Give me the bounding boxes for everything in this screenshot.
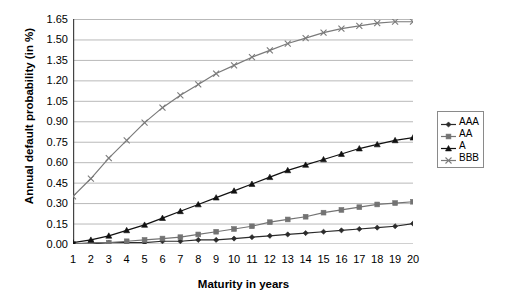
x-tick-label: 6 (159, 253, 165, 265)
data-point-marker (232, 227, 237, 232)
legend-marker-square-icon (440, 128, 457, 139)
series-line (73, 22, 413, 197)
data-point-marker (160, 236, 165, 241)
x-tick-label: 17 (353, 253, 365, 265)
data-point-marker (357, 205, 362, 210)
data-point-marker (267, 220, 272, 225)
data-point-marker (214, 229, 219, 234)
data-point-marker (196, 232, 201, 237)
data-point-marker (267, 47, 273, 53)
data-point-marker (250, 224, 255, 229)
data-point-marker (214, 237, 219, 242)
default-probability-chart: Annual default probability (in %) 0.000.… (0, 0, 506, 301)
x-axis-tick-labels: 1234567891011121314151617181920 (0, 250, 506, 270)
data-point-marker (178, 235, 183, 240)
plot-area (73, 19, 413, 244)
y-tick-label: 1.20 (47, 74, 68, 86)
y-tick-label: 0.00 (47, 238, 68, 250)
x-tick-label: 2 (88, 253, 94, 265)
legend-marker-diamond-icon (440, 116, 457, 127)
data-point-marker (249, 235, 254, 240)
legend-label: A (457, 140, 466, 151)
legend-item-a[interactable]: A (440, 140, 480, 151)
legend-label: AAA (457, 116, 479, 127)
x-tick-label: 16 (335, 253, 347, 265)
data-point-marker (375, 202, 380, 207)
legend-marker-triangle-icon (440, 140, 457, 151)
x-tick-label: 9 (213, 253, 219, 265)
data-point-marker (410, 221, 413, 226)
x-tick-label: 15 (317, 253, 329, 265)
data-point-marker (357, 226, 362, 231)
data-point-marker (196, 237, 201, 242)
data-point-marker (285, 217, 290, 222)
data-point-marker (393, 201, 398, 206)
y-tick-label: 1.65 (47, 13, 68, 25)
x-tick-label: 14 (300, 253, 312, 265)
data-point-marker (142, 238, 147, 243)
data-point-marker (142, 120, 148, 126)
data-point-marker (88, 176, 94, 182)
x-tick-label: 18 (371, 253, 383, 265)
x-tick-label: 19 (389, 253, 401, 265)
x-tick-label: 8 (195, 253, 201, 265)
series-bbb (73, 19, 413, 199)
x-tick-label: 10 (228, 253, 240, 265)
data-point-marker (213, 71, 219, 77)
legend-marker-cross-icon (440, 152, 457, 163)
plot-svg (73, 19, 413, 244)
legend-item-aa[interactable]: AA (440, 128, 480, 139)
x-tick-label: 1 (70, 253, 76, 265)
x-tick-label: 12 (264, 253, 276, 265)
x-axis-title: Maturity in years (73, 278, 414, 290)
series-line (73, 138, 413, 243)
data-point-marker (285, 41, 291, 47)
data-point-marker (249, 54, 255, 60)
data-point-marker (177, 92, 183, 98)
data-point-marker (339, 208, 344, 213)
y-tick-label: 0.45 (47, 177, 68, 189)
x-tick-label: 7 (177, 253, 183, 265)
data-point-marker (285, 232, 290, 237)
x-tick-label: 5 (142, 253, 148, 265)
data-point-marker (124, 239, 129, 244)
data-point-marker (321, 210, 326, 215)
y-tick-label: 0.75 (47, 136, 68, 148)
data-point-marker (446, 134, 451, 139)
legend-item-bbb[interactable]: BBB (440, 152, 480, 163)
y-tick-label: 1.50 (47, 33, 68, 45)
data-point-marker (106, 155, 112, 161)
data-point-marker (231, 62, 237, 68)
x-tick-label: 4 (124, 253, 130, 265)
data-point-marker (303, 214, 308, 219)
x-tick-label: 20 (407, 253, 419, 265)
data-point-marker (159, 105, 165, 111)
data-point-marker (106, 240, 111, 244)
data-point-marker (321, 229, 326, 234)
legend-label: AA (457, 128, 472, 139)
x-tick-label: 13 (282, 253, 294, 265)
data-point-marker (411, 199, 413, 204)
y-tick-label: 0.90 (47, 115, 68, 127)
data-point-marker (339, 228, 344, 233)
data-point-marker (195, 81, 201, 87)
chart-legend: AAAAAABBB (437, 111, 484, 168)
x-tick-label: 3 (106, 253, 112, 265)
x-tick-label: 11 (246, 253, 257, 265)
data-point-marker (267, 233, 272, 238)
y-tick-label: 0.30 (47, 197, 68, 209)
data-point-marker (446, 122, 451, 127)
data-point-marker (303, 230, 308, 235)
y-tick-label: 0.60 (47, 156, 68, 168)
legend-item-aaa[interactable]: AAA (440, 116, 480, 127)
data-point-marker (375, 225, 380, 230)
data-point-marker (231, 236, 236, 241)
data-point-marker (410, 135, 413, 140)
y-tick-label: 0.15 (47, 218, 68, 230)
legend-label: BBB (457, 152, 479, 163)
y-tick-label: 1.05 (47, 95, 68, 107)
y-tick-label: 1.35 (47, 54, 68, 66)
